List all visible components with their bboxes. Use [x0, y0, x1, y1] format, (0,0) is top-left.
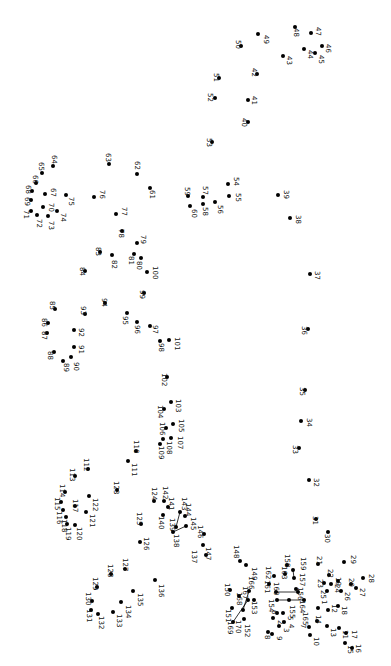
- dot-label: 150: [223, 583, 230, 596]
- dot-label: 20: [347, 578, 354, 587]
- dot-91[interactable]: [72, 345, 76, 349]
- dot-149[interactable]: [244, 563, 248, 567]
- dot-3[interactable]: [277, 624, 281, 628]
- dot-145[interactable]: [184, 524, 188, 528]
- dot-label: 124: [150, 487, 157, 500]
- dot-47[interactable]: [309, 31, 313, 35]
- dot-label: 125: [135, 512, 142, 525]
- dot-label: 71: [22, 210, 29, 219]
- dot-134[interactable]: [119, 600, 123, 604]
- dot-96[interactable]: [135, 320, 139, 324]
- dot-label: 89: [62, 363, 69, 372]
- dot-159[interactable]: [291, 568, 295, 572]
- dot-155[interactable]: [287, 598, 291, 602]
- dot-label: 59: [183, 187, 190, 196]
- dot-95[interactable]: [125, 311, 129, 315]
- dot-72[interactable]: [35, 213, 39, 217]
- dot-label: 87: [40, 331, 47, 340]
- dot-39[interactable]: [276, 193, 280, 197]
- dot-67[interactable]: [43, 192, 47, 196]
- dot-100[interactable]: [145, 270, 149, 274]
- dot-label: 101: [173, 337, 180, 350]
- dot-label: 129: [91, 577, 98, 590]
- dot-76[interactable]: [92, 195, 96, 199]
- dot-label: 163: [280, 566, 287, 579]
- dot-55[interactable]: [227, 194, 231, 198]
- dot-56[interactable]: [213, 200, 217, 204]
- dot-label: 162: [264, 566, 271, 579]
- dot-label: 141: [167, 497, 174, 510]
- dot-1[interactable]: [316, 606, 320, 610]
- dot-90[interactable]: [69, 355, 73, 359]
- dot-37[interactable]: [308, 272, 312, 276]
- dot-label: 40: [240, 118, 247, 127]
- dot-label: 61: [148, 190, 155, 199]
- dot-165[interactable]: [302, 598, 306, 602]
- dot-135[interactable]: [131, 589, 135, 593]
- dot-label: 114: [58, 484, 65, 497]
- dot-77[interactable]: [114, 212, 118, 216]
- dot-103[interactable]: [169, 400, 173, 404]
- dot-101[interactable]: [167, 338, 171, 342]
- dot-label: 44: [306, 50, 313, 59]
- dot-label: 16: [354, 644, 361, 653]
- dot-label: 142: [161, 486, 168, 499]
- dot-162[interactable]: [272, 574, 276, 578]
- dot-105[interactable]: [171, 422, 175, 426]
- dot-62[interactable]: [135, 172, 139, 176]
- dot-label: 165: [301, 612, 308, 625]
- dot-136[interactable]: [153, 578, 157, 582]
- dot-57[interactable]: [201, 195, 205, 199]
- dot-2[interactable]: [271, 616, 275, 620]
- dot-49[interactable]: [256, 32, 260, 36]
- dot-154[interactable]: [275, 598, 279, 602]
- dot-157[interactable]: [292, 576, 296, 580]
- dot-label: 22: [326, 569, 333, 578]
- dot-9[interactable]: [270, 632, 274, 636]
- dot-label: 107: [176, 436, 183, 449]
- dot-143[interactable]: [178, 510, 182, 514]
- dot-38[interactable]: [288, 216, 292, 220]
- dot-label: 78: [117, 229, 124, 238]
- dot-label: 145: [189, 517, 196, 530]
- dot-label: 160: [272, 582, 279, 595]
- dot-label: 137: [190, 550, 197, 563]
- dot-label: 81: [127, 256, 134, 265]
- dot-152[interactable]: [242, 617, 246, 621]
- dot-64[interactable]: [51, 164, 55, 168]
- dot-65[interactable]: [40, 171, 44, 175]
- dot-70[interactable]: [41, 205, 45, 209]
- dot-107[interactable]: [169, 436, 173, 440]
- dot-119[interactable]: [65, 522, 69, 526]
- dot-4[interactable]: [282, 620, 286, 624]
- dot-82[interactable]: [110, 253, 114, 257]
- dot-label: 152: [243, 624, 250, 637]
- dot-80[interactable]: [139, 256, 143, 260]
- dot-5[interactable]: [281, 611, 285, 615]
- dot-58[interactable]: [201, 202, 205, 206]
- dot-label: 75: [67, 197, 74, 206]
- dot-label: 113: [68, 468, 75, 481]
- dot-34[interactable]: [299, 419, 303, 423]
- dot-164[interactable]: [296, 590, 300, 594]
- dot-label: 58: [201, 207, 208, 216]
- dot-170[interactable]: [241, 608, 245, 612]
- dot-label: 9: [275, 636, 282, 640]
- dot-label: 88: [46, 351, 53, 360]
- dot-17[interactable]: [344, 631, 348, 635]
- dot-63[interactable]: [107, 162, 111, 166]
- dot-label: 122: [91, 498, 98, 511]
- dot-29[interactable]: [342, 560, 346, 564]
- dot-label: 153: [250, 601, 257, 614]
- dot-label: 155: [288, 605, 295, 618]
- dot-142[interactable]: [162, 499, 166, 503]
- dot-60[interactable]: [188, 204, 192, 208]
- dot-32[interactable]: [307, 478, 311, 482]
- dot-28[interactable]: [361, 576, 365, 580]
- dot-54[interactable]: [226, 182, 230, 186]
- dot-148[interactable]: [238, 559, 242, 563]
- dot-label: 85: [48, 301, 55, 310]
- dot-7[interactable]: [307, 625, 311, 629]
- dot-73[interactable]: [46, 214, 50, 218]
- dot-92[interactable]: [72, 328, 76, 332]
